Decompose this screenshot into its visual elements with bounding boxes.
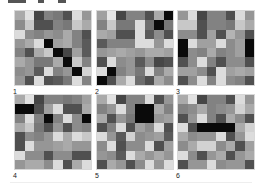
grid-cell [235, 95, 245, 104]
grid-cell [207, 114, 217, 123]
grid-cell [63, 141, 73, 150]
grid-cell [34, 141, 44, 150]
grid-cell [216, 39, 226, 48]
grid-cell [135, 39, 145, 48]
grid-cell [107, 132, 117, 141]
grid-cell [154, 67, 164, 76]
grid-cell [235, 20, 245, 29]
grid-cell [245, 123, 255, 132]
grid-cell [116, 20, 126, 29]
grid-cell [197, 132, 207, 141]
grid-cell [226, 39, 236, 48]
grid-cell [72, 114, 82, 123]
grid-cell [188, 67, 198, 76]
grid-cell [63, 57, 73, 66]
grid-cell [245, 160, 255, 169]
grid-cell [145, 151, 155, 160]
grid-cell [72, 76, 82, 85]
grid-cell [207, 20, 217, 29]
grid-cell [245, 57, 255, 66]
grid-cell [82, 67, 92, 76]
grid-cell [197, 48, 207, 57]
grid-cell [178, 123, 188, 132]
grid-cell [178, 132, 188, 141]
grid-cell [72, 48, 82, 57]
grid-cell [25, 48, 35, 57]
grid-cell [197, 57, 207, 66]
panel-2 [96, 10, 174, 86]
grid-cell [135, 114, 145, 123]
grid-cell [72, 141, 82, 150]
grid-cell [97, 104, 107, 113]
grid-cell [178, 20, 188, 29]
grid-cell [97, 132, 107, 141]
grid-cell [164, 141, 174, 150]
grid-cell [226, 95, 236, 104]
grid-cell [145, 30, 155, 39]
grid-cell [164, 20, 174, 29]
grid-cell [97, 160, 107, 169]
grid-cell [135, 30, 145, 39]
grid-cell [216, 30, 226, 39]
grid-cell [15, 30, 25, 39]
grid-cell [126, 141, 136, 150]
grid-cell [116, 160, 126, 169]
grid-cell [53, 57, 63, 66]
grid-cell [154, 104, 164, 113]
cropped-top-graphic [8, 0, 68, 3]
grid-cell [25, 95, 35, 104]
grid-cell [34, 30, 44, 39]
grid-cell [44, 48, 54, 57]
grid-cell [164, 11, 174, 20]
grid-cell [178, 11, 188, 20]
grid-cell [226, 76, 236, 85]
grid-cell [63, 39, 73, 48]
grid-cell [126, 114, 136, 123]
panel-3 [177, 10, 255, 86]
grid-cell [154, 151, 164, 160]
grid-cell [188, 11, 198, 20]
grid-cell [135, 76, 145, 85]
grid-cell [207, 104, 217, 113]
grid-cell [63, 160, 73, 169]
grid-cell [245, 132, 255, 141]
grid-cell [63, 123, 73, 132]
grid-cell [135, 123, 145, 132]
grid-cell [44, 151, 54, 160]
grid-cell [235, 30, 245, 39]
grid-cell [97, 123, 107, 132]
grid-cell [82, 95, 92, 104]
grid-cell [97, 57, 107, 66]
grid-cell [116, 104, 126, 113]
grid-cell [34, 48, 44, 57]
grid-cell [216, 114, 226, 123]
grid-cell [226, 114, 236, 123]
panel-label: 4 [13, 172, 17, 179]
grid-cell [72, 95, 82, 104]
grid-cell [126, 48, 136, 57]
grid-cell [53, 160, 63, 169]
grid-cell [245, 30, 255, 39]
grid-cell [178, 48, 188, 57]
grid-cell [164, 123, 174, 132]
grid-cell [135, 104, 145, 113]
grid-cell [82, 132, 92, 141]
grid-cell [178, 160, 188, 169]
grid-cell [235, 57, 245, 66]
grid-cell [226, 160, 236, 169]
grid-cell [15, 160, 25, 169]
grid-cell [154, 132, 164, 141]
grid-cell [178, 95, 188, 104]
grid-cell [116, 141, 126, 150]
grid-cell [197, 39, 207, 48]
grid-cell [188, 141, 198, 150]
grid-cell [235, 39, 245, 48]
grid-cell [15, 132, 25, 141]
grid-cell [207, 39, 217, 48]
grid-cell [235, 160, 245, 169]
grid-cell [97, 151, 107, 160]
grid-cell [135, 141, 145, 150]
panel-4 [14, 94, 92, 170]
grid-cell [53, 67, 63, 76]
grid-cell [63, 11, 73, 20]
